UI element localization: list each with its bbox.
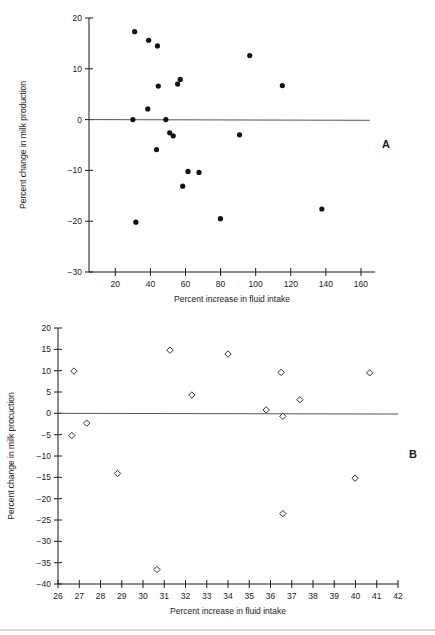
y-tick-label: −20 (37, 494, 52, 504)
x-tick-label: 42 (393, 591, 403, 601)
x-tick-label: 32 (181, 591, 191, 601)
data-point (367, 370, 373, 376)
data-point (175, 81, 180, 86)
x-tick-label: 40 (351, 591, 361, 601)
y-tick-label: −10 (68, 165, 83, 175)
x-tick-label: 27 (75, 591, 85, 601)
data-point (319, 206, 324, 211)
data-point (185, 169, 190, 174)
data-point (133, 220, 138, 225)
x-tick-label: 41 (372, 591, 382, 601)
data-point (247, 53, 252, 58)
data-point (237, 132, 242, 137)
x-tick-label: 100 (249, 279, 263, 289)
data-point (280, 83, 285, 88)
data-point (171, 133, 176, 138)
x-tick-label: 26 (53, 591, 63, 601)
y-tick-label: 10 (73, 64, 83, 74)
figure-container: −30−20−100102020406080100120140160Percen… (0, 0, 435, 635)
y-tick-label: 0 (77, 115, 82, 125)
data-point (280, 510, 286, 516)
data-point (180, 184, 185, 189)
data-point (163, 117, 168, 122)
data-point (196, 170, 201, 175)
x-tick-label: 39 (330, 591, 340, 601)
scatter-panel-a: −30−20−100102020406080100120140160Percen… (0, 0, 435, 318)
x-tick-label: 80 (216, 279, 226, 289)
y-axis-title: Percent change in milk procuction (6, 392, 16, 520)
data-point (69, 432, 75, 438)
y-tick-label: −30 (37, 536, 52, 546)
x-tick-label: 60 (181, 279, 191, 289)
x-tick-label: 120 (284, 279, 298, 289)
data-point (167, 347, 173, 353)
data-point (218, 216, 223, 221)
x-tick-label: 30 (138, 591, 148, 601)
data-point (297, 396, 303, 402)
x-tick-label: 20 (111, 279, 121, 289)
x-tick-label: 31 (160, 591, 170, 601)
data-point (278, 369, 284, 375)
data-point (263, 407, 269, 413)
y-tick-label: −35 (37, 558, 52, 568)
data-point (146, 38, 151, 43)
y-tick-label: 5 (46, 387, 51, 397)
x-axis-title: Percent increase in fluid intake (174, 294, 290, 304)
panel-letter-b: B (409, 448, 417, 460)
plot-area: −30−20−100102020406080100120140160Percen… (18, 13, 375, 304)
panel-letter-a: A (382, 138, 390, 150)
plot-area: −40−35−30−25−20−15−10−505101520262728293… (6, 323, 403, 616)
data-point (114, 470, 120, 476)
data-point (132, 29, 137, 34)
x-tick-label: 38 (308, 591, 318, 601)
y-tick-label: 10 (42, 366, 52, 376)
y-tick-label: −25 (37, 515, 52, 525)
data-point (83, 420, 89, 426)
data-point (189, 392, 195, 398)
data-point (145, 106, 150, 111)
y-tick-label: −15 (37, 472, 52, 482)
scatter-plot-b: −40−35−30−25−20−15−10−505101520262728293… (0, 318, 435, 635)
y-tick-label: 20 (73, 13, 83, 23)
footer-divider (0, 629, 435, 631)
x-tick-label: 140 (319, 279, 333, 289)
y-tick-label: 15 (42, 344, 52, 354)
y-tick-label: 0 (46, 408, 51, 418)
scatter-panel-b: −40−35−30−25−20−15−10−505101520262728293… (0, 318, 435, 635)
data-point (178, 77, 183, 82)
x-axis-title: Percent increase in fluid intake (170, 606, 286, 616)
y-tick-label: −10 (37, 451, 52, 461)
data-point (154, 147, 159, 152)
x-tick-label: 33 (202, 591, 212, 601)
data-point (155, 43, 160, 48)
y-tick-label: −20 (68, 216, 83, 226)
y-tick-label: 20 (42, 323, 52, 333)
data-point (130, 117, 135, 122)
x-tick-label: 40 (146, 279, 156, 289)
scatter-plot-a: −30−20−100102020406080100120140160Percen… (0, 0, 435, 318)
x-tick-label: 160 (354, 279, 368, 289)
zero-reference-line (58, 413, 398, 414)
y-tick-label: −30 (68, 267, 83, 277)
x-tick-label: 35 (245, 591, 255, 601)
y-tick-label: −5 (41, 430, 51, 440)
data-point (352, 475, 358, 481)
x-tick-label: 34 (223, 591, 233, 601)
x-tick-label: 37 (287, 591, 297, 601)
data-point (156, 83, 161, 88)
x-tick-label: 29 (117, 591, 127, 601)
data-point (71, 368, 77, 374)
x-tick-label: 28 (96, 591, 106, 601)
x-tick-label: 36 (266, 591, 276, 601)
y-tick-label: −40 (37, 579, 52, 589)
data-point (154, 566, 160, 572)
data-point (225, 351, 231, 357)
y-axis-title: Percent change in milk production (18, 81, 28, 209)
